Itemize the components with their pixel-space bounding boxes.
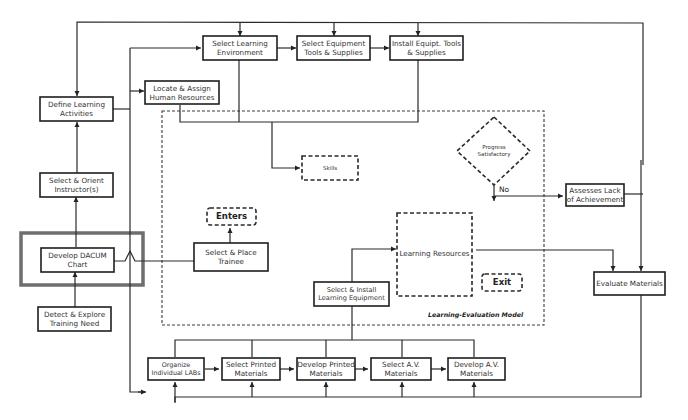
label-no: No (499, 185, 509, 194)
label-develop-printed: Develop Printed Materials (297, 358, 355, 380)
label-enters: Enters (207, 208, 256, 225)
label-organize-labs: Organize Individual LABs (148, 358, 204, 380)
flowchart-canvas (0, 0, 688, 420)
label-install-equipment-tools: Install Equipt. Tools & Supplies (390, 36, 463, 60)
label-select-printed: Select Printed Materials (222, 358, 280, 380)
label-select-equipment-tools: Select Equipment Tools & Supplies (297, 36, 370, 60)
label-detect-explore-need: Detect & Explore Training Need (38, 307, 111, 331)
label-select-install-equipment: Select & Install Learning Equipment (314, 282, 389, 306)
label-develop-dacum-chart: Develop DACUM Chart (41, 248, 114, 272)
label-skills: Skills (302, 156, 358, 180)
label-locate-assign-hr: Locate & Assign Human Resources (145, 81, 219, 104)
label-learning-resources: Learning Resources (397, 240, 472, 266)
label-select-place-trainee: Select & Place Trainee (194, 243, 268, 271)
label-select-orient-instructors: Select & Orient Instructor(s) (40, 173, 113, 197)
label-select-learning-environment: Select Learning Environment (203, 36, 277, 60)
model-title: Learning-Evaluation Model (428, 311, 523, 318)
label-define-learning-activities: Define Learning Activities (40, 97, 113, 121)
label-develop-av: Develop A.V. Materials (448, 358, 505, 380)
label-progress-satisfactory: Progress Satisfactory (470, 140, 518, 162)
label-select-av: Select A.V. Materials (371, 358, 431, 380)
label-assesses-lack: Assesses Lack of Achievement (566, 184, 624, 206)
label-exit: Exit (482, 274, 522, 291)
label-evaluate-materials: Evaluate Materials (594, 272, 665, 295)
